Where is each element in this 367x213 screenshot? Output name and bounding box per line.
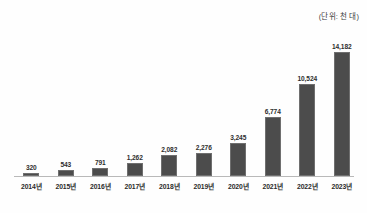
bar-value-label: 6,774 bbox=[265, 108, 281, 115]
bar-column: 6,774 bbox=[256, 30, 291, 176]
category-label: 2020년 bbox=[221, 181, 256, 191]
bar-chart-figure: (단위: 천 대) 320 543 791 1,262 2,082 2,276 bbox=[0, 0, 367, 213]
bar-rect bbox=[92, 168, 108, 176]
unit-annotation: (단위: 천 대) bbox=[319, 10, 359, 21]
bar-rect bbox=[299, 84, 315, 176]
bar-rect bbox=[196, 153, 212, 176]
bar-value-label: 14,182 bbox=[332, 43, 352, 50]
bar-rect bbox=[161, 155, 177, 176]
bar-column: 543 bbox=[49, 30, 84, 176]
bar-series: 320 543 791 1,262 2,082 2,276 3,245 bbox=[14, 30, 359, 176]
bar-column: 791 bbox=[83, 30, 118, 176]
bar-value-label: 2,276 bbox=[196, 144, 212, 151]
bar-rect bbox=[334, 52, 350, 176]
category-label: 2015년 bbox=[49, 181, 84, 191]
category-axis-labels: 2014년 2015년 2016년 2017년 2018년 2019년 2020… bbox=[14, 181, 359, 191]
bar-value-label: 791 bbox=[95, 159, 106, 166]
bar-rect bbox=[230, 143, 246, 176]
category-axis-line bbox=[14, 176, 354, 177]
category-label: 2016년 bbox=[83, 181, 118, 191]
bar-value-label: 543 bbox=[60, 161, 71, 168]
category-label: 2014년 bbox=[14, 181, 49, 191]
category-label: 2023년 bbox=[325, 181, 360, 191]
category-label: 2017년 bbox=[118, 181, 153, 191]
bar-value-label: 3,245 bbox=[230, 134, 246, 141]
bar-column: 3,245 bbox=[221, 30, 256, 176]
bar-column: 320 bbox=[14, 30, 49, 176]
bar-column: 1,262 bbox=[118, 30, 153, 176]
bar-value-label: 1,262 bbox=[127, 154, 143, 161]
bar-value-label: 10,524 bbox=[297, 75, 317, 82]
bar-rect bbox=[127, 163, 143, 176]
bar-value-label: 320 bbox=[26, 164, 37, 171]
bar-rect bbox=[265, 117, 281, 176]
category-label: 2018년 bbox=[152, 181, 187, 191]
bar-column: 2,082 bbox=[152, 30, 187, 176]
bar-column: 2,276 bbox=[187, 30, 222, 176]
category-label: 2021년 bbox=[256, 181, 291, 191]
bar-column: 10,524 bbox=[290, 30, 325, 176]
category-label: 2019년 bbox=[187, 181, 222, 191]
bar-column: 14,182 bbox=[325, 30, 360, 176]
bar-value-label: 2,082 bbox=[161, 146, 177, 153]
category-label: 2022년 bbox=[290, 181, 325, 191]
